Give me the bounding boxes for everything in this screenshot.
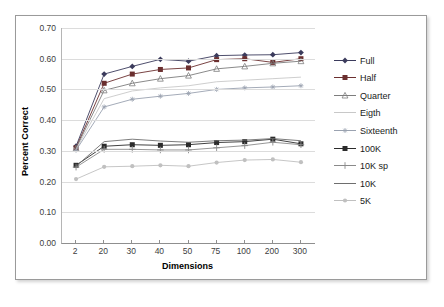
series-point (74, 177, 78, 181)
gridline (62, 28, 315, 29)
series-point (186, 164, 190, 168)
series-point (185, 147, 192, 154)
legend-item-eigth[interactable]: Eigth (334, 105, 381, 122)
series-quarter (73, 58, 304, 151)
x-axis-tick-label: 300 (293, 246, 307, 256)
gridline (62, 89, 315, 90)
y-axis-tick-label: 0.70 (39, 23, 56, 33)
legend-marker-icon (334, 107, 356, 119)
y-axis-tick-label: 0.50 (39, 84, 56, 94)
legend-item-label: 10K sp (360, 161, 388, 171)
legend-marker-glyph (342, 162, 349, 169)
series-point (186, 142, 191, 147)
legend-marker-icon (334, 160, 356, 172)
legend-item-label: 5K (360, 196, 371, 206)
x-axis-tick-mark (103, 240, 104, 244)
x-axis-tick-label: 40 (155, 246, 164, 256)
legend-marker-icon (334, 143, 356, 155)
legend-item-label: Half (360, 73, 376, 83)
series-point (158, 163, 162, 167)
legend-item-100k[interactable]: 100K (334, 140, 381, 157)
series-point (299, 160, 303, 164)
legend-marker-icon (334, 178, 356, 190)
y-axis-tick-label: 0.60 (39, 54, 56, 64)
gridline (62, 120, 315, 121)
series-point (298, 83, 303, 88)
series-point (101, 71, 107, 77)
legend-item-label: 100K (360, 144, 381, 154)
x-axis-tick-label: 100 (237, 246, 251, 256)
series-point (271, 157, 275, 161)
y-axis-tick-labels: 0.700.600.500.400.300.200.100.00 (28, 28, 58, 243)
y-axis-tick-label: 0.40 (39, 115, 56, 125)
series-point (243, 158, 247, 162)
series-point (102, 81, 107, 86)
legend-marker-icon (334, 195, 356, 207)
legend-item-label: Quarter (360, 91, 391, 101)
series-half (74, 56, 304, 150)
y-axis-tick-label: 0.00 (39, 238, 56, 248)
gridline (62, 151, 315, 152)
series-point (186, 65, 191, 70)
legend-marker-glyph (342, 57, 348, 63)
series-5k (74, 157, 303, 181)
x-axis-tick-label: 20 (98, 246, 107, 256)
series-point (186, 91, 191, 96)
x-axis-tick-label: 30 (127, 246, 136, 256)
x-axis-title: Dimensions (61, 261, 314, 271)
legend-marker-glyph (343, 128, 348, 133)
legend-item-half[interactable]: Half (334, 70, 376, 87)
legend-item-full[interactable]: Full (334, 52, 375, 69)
x-axis-tick-label: 75 (211, 246, 220, 256)
x-axis-tick-mark (244, 240, 245, 244)
x-axis-tick-mark (159, 240, 160, 244)
series-point (298, 50, 304, 56)
legend-marker-glyph (343, 75, 348, 80)
gridline (62, 182, 315, 183)
series-point (102, 165, 106, 169)
y-axis-tick-label: 0.10 (39, 207, 56, 217)
legend-item-10k-sp[interactable]: 10K sp (334, 158, 388, 175)
x-axis-tick-mark (300, 240, 301, 244)
legend-marker-icon (334, 90, 356, 102)
x-axis-tick-mark (216, 240, 217, 244)
series-point (130, 72, 135, 77)
series-point (158, 67, 163, 72)
legend-item-label: Full (360, 56, 375, 66)
legend-marker-glyph (343, 199, 347, 203)
series-point (130, 97, 135, 102)
legend-item-10k[interactable]: 10K (334, 175, 376, 192)
legend-marker-glyph (342, 92, 348, 98)
x-axis-tick-label: 2 (73, 246, 78, 256)
legend-item-5k[interactable]: 5K (334, 193, 371, 210)
x-axis-tick-mark (75, 240, 76, 244)
y-axis-tick-label: 0.20 (39, 177, 56, 187)
series-line (76, 61, 301, 148)
legend-marker-icon (334, 125, 356, 137)
x-axis-tick-mark (131, 240, 132, 244)
legend-item-label: Sixteenth (360, 126, 398, 136)
legend-item-label: Eigth (360, 108, 381, 118)
series-line (76, 159, 301, 179)
legend-item-sixteenth[interactable]: Sixteenth (334, 122, 398, 139)
legend-marker-icon (334, 55, 356, 67)
x-axis-tick-mark (272, 240, 273, 244)
series-point (158, 94, 163, 99)
legend-item-label: 10K (360, 179, 376, 189)
x-axis-tick-mark (188, 240, 189, 244)
plot-area (61, 28, 315, 244)
y-axis-tick-label: 0.30 (39, 146, 56, 156)
gridline (62, 212, 315, 213)
series-point (130, 164, 134, 168)
chart-plot-region: Percent Correct 0.700.600.500.400.300.20… (16, 16, 426, 279)
series-point (129, 63, 135, 69)
series-full (73, 50, 304, 149)
x-axis-tick-labels: 22030405075100200300 (61, 245, 314, 259)
legend-item-quarter[interactable]: Quarter (334, 87, 391, 104)
legend-marker-glyph (343, 146, 348, 151)
x-axis-tick-label: 200 (265, 246, 279, 256)
series-lines-svg (62, 28, 315, 243)
series-point (102, 104, 107, 109)
legend-marker-icon (334, 72, 356, 84)
x-axis-tick-label: 50 (183, 246, 192, 256)
